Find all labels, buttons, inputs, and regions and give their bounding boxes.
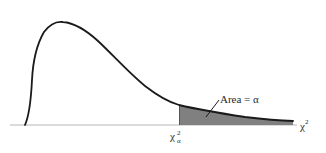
critical-value-symbol: χ — [169, 130, 175, 142]
x-axis-label: χ2 — [299, 118, 309, 132]
critical-value-subscript: α — [177, 137, 181, 145]
area-label: Area = α — [220, 93, 259, 105]
x-axis-superscript: 2 — [305, 118, 309, 126]
chi-square-diagram: Area = α χ2 χ 2 α — [0, 0, 326, 153]
critical-value-label: χ — [169, 130, 175, 142]
critical-value-superscript: 2 — [177, 129, 181, 137]
density-curve — [25, 22, 293, 125]
